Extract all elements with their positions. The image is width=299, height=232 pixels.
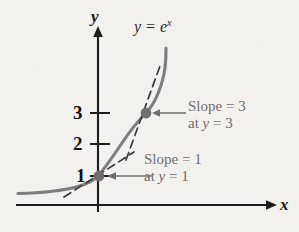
y-tick-label-1: 1 (76, 166, 86, 185)
annotation-slope-1-line2: at y = 1 (144, 168, 202, 185)
annotation-slope-3-value: = 3 (209, 115, 232, 131)
annotation-slope-1-at: at (144, 168, 159, 184)
x-axis-arrowhead (266, 200, 277, 209)
annotation-slope-1-value: = 1 (165, 168, 188, 184)
exponential-function-figure: y x 3 2 1 y = ex Slope = 3 at y = 3 Slop… (0, 0, 299, 232)
leader-arrowhead-slope-3 (152, 109, 160, 117)
x-axis-label: x (280, 196, 289, 213)
y-tick-label-3: 3 (73, 103, 83, 122)
curve-equation-exponent: x (167, 17, 171, 28)
annotation-slope-3: Slope = 3 at y = 3 (188, 98, 246, 132)
y-axis-label: y (91, 8, 99, 25)
y-tick-label-2: 2 (73, 134, 83, 153)
curve-equation-base: y = e (134, 18, 167, 35)
annotation-slope-1-line1: Slope = 1 (144, 151, 202, 167)
tangent-point-y1 (94, 171, 105, 182)
annotation-slope-3-line1: Slope = 3 (188, 98, 246, 114)
annotation-slope-1: Slope = 1 at y = 1 (144, 151, 202, 185)
tangent-point-y3 (141, 108, 152, 119)
y-axis-arrowhead (93, 26, 103, 37)
curve-equation-label: y = ex (134, 18, 171, 35)
leader-arrowhead-slope-1 (107, 172, 116, 180)
annotation-slope-3-line2: at y = 3 (188, 115, 246, 132)
annotation-slope-3-at: at (188, 115, 203, 131)
